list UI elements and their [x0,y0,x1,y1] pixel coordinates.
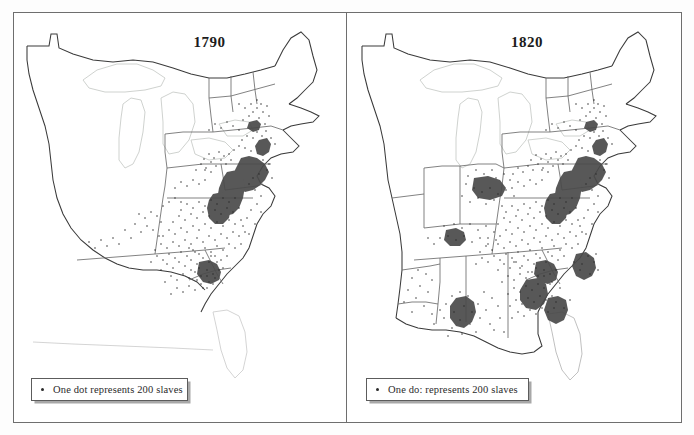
dense-population-areas-1790 [197,120,271,284]
slave-population-map-figure: 1790 [0,0,694,435]
legend-1790: One dot represents 200 slaves [31,378,188,401]
legend-dot-icon-1790 [41,388,44,391]
legend-1820: One do: represents 200 slaves [366,378,529,401]
map-panel-1790: 1790 [13,12,346,423]
great-lakes-1820 [420,64,590,168]
coastline-1820 [362,32,656,354]
map-1790-svg [13,12,346,423]
panel-divider [346,12,347,423]
legend-dot-icon-1820 [376,388,379,391]
map-1820-svg [348,12,682,423]
legend-text-1790: One dot represents 200 slaves [53,384,183,395]
coastline-1790 [27,32,319,312]
state-borders-1820 [392,72,620,338]
unorganized-territory-1790 [33,310,247,378]
map-panel-1820: 1820 [348,12,682,423]
legend-text-1820: One do: represents 200 slaves [388,384,518,395]
great-lakes-1790 [83,64,253,168]
